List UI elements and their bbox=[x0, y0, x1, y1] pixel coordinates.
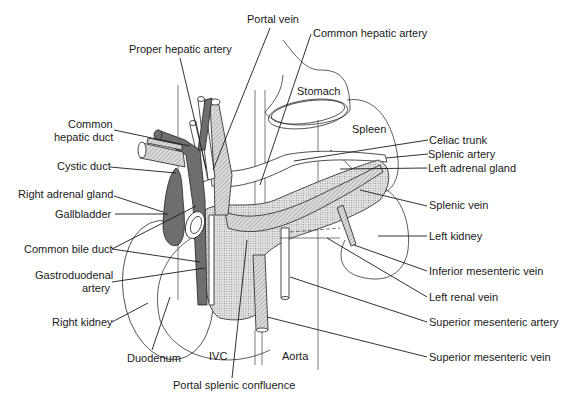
stomach-outline bbox=[265, 40, 350, 125]
label-splenic-vein: Splenic vein bbox=[429, 199, 488, 211]
label-portal-vein: Portal vein bbox=[247, 13, 299, 25]
label-left-renal-vein: Left renal vein bbox=[429, 291, 498, 303]
label-duodenum: Duodenum bbox=[127, 352, 181, 364]
label-portal-splenic-confluence: Portal splenic confluence bbox=[173, 379, 295, 391]
label-inferior-mesenteric-vein: Inferior mesenteric vein bbox=[429, 265, 543, 277]
label-stomach: Stomach bbox=[297, 85, 340, 97]
stomach-opening bbox=[266, 95, 349, 134]
label-common-bile-duct: Common bile duct bbox=[24, 243, 113, 255]
portal-vein bbox=[210, 100, 232, 215]
label-gallbladder: Gallbladder bbox=[55, 208, 112, 220]
label-spleen: Spleen bbox=[352, 123, 386, 135]
anatomy-diagram: Portal vein Common hepatic artery Proper… bbox=[0, 0, 569, 406]
gallbladder bbox=[163, 168, 184, 246]
label-cystic-duct: Cystic duct bbox=[57, 160, 111, 172]
superior-mesenteric-vein bbox=[253, 255, 268, 330]
label-common-hepatic-artery: Common hepatic artery bbox=[313, 27, 428, 39]
label-common-hepatic-duct-line2: hepatic duct bbox=[54, 131, 113, 143]
label-right-adrenal-gland: Right adrenal gland bbox=[18, 188, 113, 200]
label-splenic-artery: Splenic artery bbox=[428, 148, 496, 160]
label-ivc: IVC bbox=[209, 350, 227, 362]
label-left-kidney: Left kidney bbox=[429, 230, 483, 242]
label-aorta: Aorta bbox=[282, 350, 309, 362]
label-gastroduodenal-artery-line1: Gastroduodenal bbox=[35, 269, 113, 281]
label-proper-hepatic-artery: Proper hepatic artery bbox=[129, 43, 232, 55]
label-superior-mesenteric-vein: Superior mesenteric vein bbox=[429, 351, 551, 363]
label-celiac-trunk: Celiac trunk bbox=[429, 134, 488, 146]
label-common-hepatic-duct-line1: Common bbox=[68, 118, 113, 130]
label-left-adrenal-gland: Left adrenal gland bbox=[428, 162, 516, 174]
label-gastroduodenal-artery-line2: artery bbox=[82, 282, 111, 294]
label-right-kidney: Right kidney bbox=[52, 316, 113, 328]
superior-mesenteric-artery bbox=[281, 228, 289, 298]
label-superior-mesenteric-artery: Superior mesenteric artery bbox=[429, 316, 559, 328]
